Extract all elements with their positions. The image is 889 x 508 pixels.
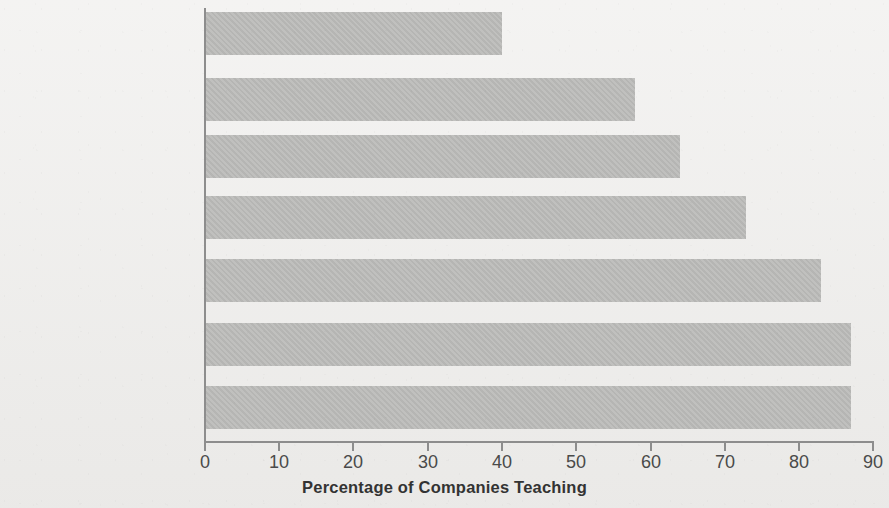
x-axis-tick-label: 60 [628,452,674,473]
bar-management-skills [205,386,851,429]
y-axis-line [204,8,206,443]
bar-clerical-skills [205,135,680,178]
x-axis-tick [501,443,503,451]
x-axis-tick-label: 30 [405,452,451,473]
x-axis-tick [872,443,874,451]
x-axis-tick-label: 50 [553,452,599,473]
bars-layer: Remedial/Basic Education Sales Skills Cl… [0,0,889,443]
x-axis-tick-label: 40 [479,452,525,473]
x-axis-tick [352,443,354,451]
x-axis-tick-label: 90 [850,452,889,473]
x-axis-line [204,441,874,443]
x-axis-tick [798,443,800,451]
bar-chart-figure: Remedial/Basic Education Sales Skills Cl… [0,0,889,508]
x-axis-tick [650,443,652,451]
x-axis-tick-label: 70 [702,452,748,473]
x-axis-tick-label: 10 [256,452,302,473]
x-axis-tick-label: 80 [776,452,822,473]
x-axis-tick-label: 20 [330,452,376,473]
bar-remedial-basic-education [205,12,502,55]
x-axis-tick [427,443,429,451]
bar-sales-skills [205,78,635,121]
x-axis-tick-label: 0 [182,452,228,473]
x-axis-tick [278,443,280,451]
bar-technical-skills [205,259,821,302]
x-axis-tick [575,443,577,451]
x-axis-title: Percentage of Companies Teaching [0,478,889,497]
bar-new-methods-procedures [205,196,746,239]
bar-computer-skills [205,323,851,366]
x-axis-tick [724,443,726,451]
x-axis-tick [204,443,206,451]
